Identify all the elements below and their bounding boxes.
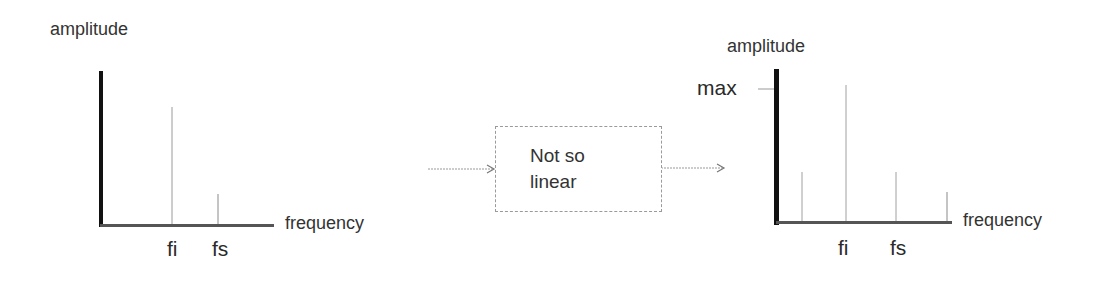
output-y-axis: [774, 69, 779, 225]
input-tick-fi: fi: [167, 237, 178, 261]
output-y-axis-label: amplitude: [727, 36, 805, 57]
output-tick-fs: fs: [890, 236, 906, 260]
output-spectrum-chart: [758, 69, 952, 225]
input-x-axis-label: frequency: [285, 213, 364, 234]
input-y-axis-label: amplitude: [50, 19, 128, 40]
input-tick-fs: fs: [212, 237, 228, 261]
output-x-axis-label: frequency: [963, 210, 1042, 231]
output-max-label: max: [697, 76, 737, 100]
output-tick-fi: fi: [838, 236, 849, 260]
system-block-label-line1: Not so: [530, 143, 585, 169]
input-spectrum-chart: [99, 71, 274, 227]
system-block-label-line2: linear: [530, 169, 576, 195]
input-y-axis: [99, 71, 103, 227]
nonlinear-system-block: Not so linear: [495, 126, 662, 212]
